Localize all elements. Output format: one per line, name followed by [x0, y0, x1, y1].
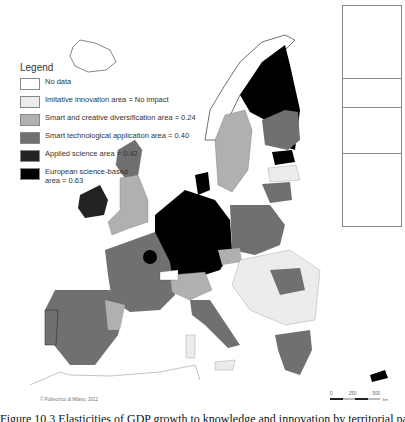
legend-swatch — [20, 168, 40, 180]
legend-item: Smart technological application area = 0… — [20, 131, 200, 144]
legend-swatch — [20, 78, 40, 90]
inset-canarias — [342, 5, 402, 79]
legend-item: Smart and creative diversification area … — [20, 113, 200, 126]
italy-south — [190, 300, 240, 348]
legend-title: Legend — [20, 62, 200, 73]
legend-swatch — [20, 96, 40, 108]
lithuania — [262, 182, 292, 203]
czech — [218, 248, 242, 265]
legend-swatch — [20, 132, 40, 144]
north-africa-coast — [30, 365, 200, 385]
greece — [275, 330, 312, 375]
legend-label: Smart and creative diversification area … — [45, 113, 196, 122]
legend-label: Smart technological application area = 0… — [45, 131, 189, 140]
scale-bar-graphic — [330, 398, 380, 400]
legend-label: European science-based area = 0.63 — [45, 167, 135, 185]
legend-item: Imitative innovation area = No impact — [20, 95, 200, 108]
legend-label: No data — [45, 77, 71, 86]
scale-unit: km — [383, 397, 388, 402]
legend-item: No data — [20, 77, 200, 90]
scale-bar: 0 250 500 km — [330, 391, 380, 400]
inset-acores-madeira — [342, 153, 402, 227]
catalonia — [105, 300, 125, 330]
sicily — [215, 360, 235, 370]
cyprus — [370, 370, 388, 382]
legend-swatch — [20, 150, 40, 162]
inset-maps — [342, 5, 402, 227]
legend-label: Imitative innovation area = No impact — [45, 95, 169, 104]
copyright: © Politecnico di Milano, 2012 — [40, 397, 98, 402]
scale-ticks: 0 250 500 — [330, 391, 380, 396]
inset-caribbean — [342, 78, 402, 108]
legend-swatch — [20, 114, 40, 126]
scale-tick: 0 — [330, 391, 333, 396]
eastern-europe — [232, 250, 320, 325]
sardinia — [186, 335, 195, 358]
legend-label: Applied science area = 0.42 — [45, 149, 138, 158]
figure-caption: Figure 10.3 Elasticities of GDP growth t… — [0, 412, 405, 422]
paris-region — [143, 250, 157, 264]
legend-item: Applied science area = 0.42 — [20, 149, 200, 162]
scale-tick: 250 — [349, 391, 357, 396]
latvia — [268, 165, 300, 182]
legend-item: European science-based area = 0.63 — [20, 167, 200, 185]
scale-tick: 500 — [372, 391, 380, 396]
inset-guyane — [342, 107, 402, 154]
estonia — [272, 150, 295, 165]
portugal — [45, 310, 58, 345]
poland — [230, 205, 285, 255]
legend: Legend No data Imitative innovation area… — [20, 62, 200, 190]
